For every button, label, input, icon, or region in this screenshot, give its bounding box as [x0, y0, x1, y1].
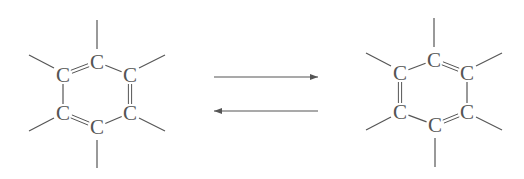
carbon-atom-label: C: [56, 101, 70, 125]
double-bond: [443, 62, 459, 68]
substituent-bond: [139, 118, 165, 131]
double-bond: [444, 117, 459, 123]
substituent-bond: [476, 53, 502, 66]
right-benzene-structure: CCCCCC: [366, 18, 502, 167]
double-bond: [71, 64, 88, 71]
carbon-atom-label: C: [460, 61, 474, 85]
carbon-atom-label: C: [90, 50, 104, 74]
single-bond: [105, 65, 121, 71]
substituent-bond: [139, 55, 165, 68]
carbon-atom-label: C: [460, 100, 474, 124]
arrowhead-icon: [310, 74, 318, 80]
resonance-diagram: CCCCCC CCCCCC: [0, 0, 524, 179]
substituent-bond: [366, 53, 391, 66]
substituent-bond: [29, 118, 54, 131]
carbon-atom-label: C: [393, 100, 407, 124]
carbon-atom-label: C: [427, 48, 441, 72]
carbon-atom-label: C: [90, 115, 104, 139]
carbon-atom-label: C: [123, 101, 137, 125]
double-bond: [72, 67, 89, 74]
single-bond: [408, 63, 425, 70]
single-bond: [408, 115, 426, 122]
double-bond: [72, 115, 89, 122]
arrowhead-icon: [214, 108, 222, 114]
equilibrium-arrows: [214, 74, 318, 114]
substituent-bond: [476, 117, 502, 130]
carbon-atom-label: C: [56, 63, 70, 87]
double-bond: [443, 114, 458, 120]
carbon-atom-label: C: [393, 61, 407, 85]
carbon-atom-label: C: [428, 113, 442, 137]
double-bond: [71, 118, 88, 125]
substituent-bond: [29, 55, 54, 68]
left-benzene-structure: CCCCCC: [29, 20, 165, 168]
substituent-bond: [366, 117, 391, 130]
double-bond: [442, 65, 458, 71]
carbon-atom-label: C: [123, 63, 137, 87]
single-bond: [105, 117, 121, 124]
